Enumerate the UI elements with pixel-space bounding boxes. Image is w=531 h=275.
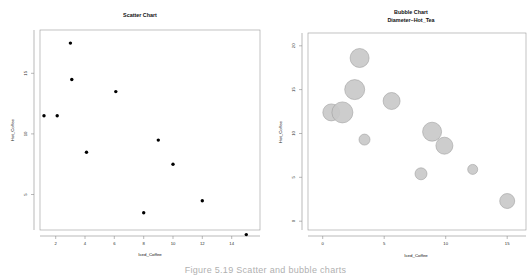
figure-caption: Figure 5.19 Scatter and bubble charts	[0, 261, 531, 275]
scatter-point	[142, 211, 145, 214]
scatter-point	[85, 151, 88, 154]
scatter-chart-svg: Scatter Chart 2 4 6 8 10 12 14 Iced_Coff…	[0, 0, 266, 275]
scatter-x-axis-title: Iced_Coffee	[138, 252, 162, 257]
scatter-point	[114, 90, 117, 93]
bubble-x-tick-label: 5	[383, 241, 386, 246]
bubble-point	[350, 49, 369, 68]
scatter-point	[245, 233, 248, 236]
bubble-point	[359, 134, 370, 145]
bubble-y-tick-label: 0	[291, 219, 296, 222]
scatter-x-tick-label: 2	[55, 241, 58, 246]
bubble-chart-panel: Bubble Chart Diameter~Hot_Tea 0 5 10 15 …	[266, 0, 531, 275]
bubble-point	[331, 102, 352, 123]
scatter-plot-frame	[40, 30, 260, 230]
bubble-y-tick-label: 5	[291, 175, 296, 178]
bubble-point	[499, 194, 514, 209]
scatter-x-ticks	[56, 236, 232, 239]
bubble-chart-title: Bubble Chart	[394, 9, 428, 15]
scatter-y-ticks	[31, 73, 34, 194]
scatter-point	[171, 163, 174, 166]
scatter-x-tick-label: 10	[171, 241, 176, 246]
bubble-point	[383, 93, 400, 110]
bubble-x-tick-label: 15	[504, 241, 509, 246]
bubble-y-axis-title: Hot_Coffee	[278, 120, 283, 143]
bubble-plot-frame	[308, 33, 526, 230]
bubble-x-ticks	[322, 236, 507, 239]
scatter-point	[56, 114, 59, 117]
scatter-y-axis-title: Hot_Coffee	[10, 118, 15, 141]
figure-container: Scatter Chart 2 4 6 8 10 12 14 Iced_Coff…	[0, 0, 531, 275]
bubble-y-tick-label: 20	[291, 43, 296, 48]
bubble-y-tick-label: 15	[291, 87, 296, 92]
scatter-x-tick-label: 4	[84, 241, 87, 246]
bubble-point	[415, 168, 427, 180]
bubble-x-tick-label: 10	[443, 241, 448, 246]
scatter-x-tick-label: 8	[143, 241, 146, 246]
scatter-point	[69, 41, 72, 44]
scatter-x-tick-label: 14	[229, 241, 234, 246]
bubble-chart-svg: Bubble Chart Diameter~Hot_Tea 0 5 10 15 …	[266, 0, 531, 275]
scatter-point	[70, 78, 73, 81]
figure-caption-text: Figure 5.19 Scatter and bubble charts	[0, 265, 531, 275]
bubble-y-ticks	[299, 46, 302, 221]
scatter-y-tick-label: 10	[23, 131, 28, 136]
scatter-x-tick-label: 6	[113, 241, 116, 246]
bubble-y-tick-label: 10	[291, 131, 296, 136]
scatter-point	[42, 114, 45, 117]
bubble-x-axis-title: Iced_Coffee	[404, 253, 428, 258]
scatter-point	[157, 138, 160, 141]
scatter-y-tick-label: 5	[23, 193, 28, 196]
scatter-y-tick-label: 15	[23, 70, 28, 75]
bubble-point	[435, 137, 452, 154]
scatter-chart-panel: Scatter Chart 2 4 6 8 10 12 14 Iced_Coff…	[0, 0, 266, 275]
bubble-chart-subtitle: Diameter~Hot_Tea	[387, 17, 435, 23]
bubble-point	[344, 80, 364, 100]
bubble-point	[422, 122, 441, 141]
bubble-x-tick-label: 0	[321, 241, 324, 246]
scatter-chart-title: Scatter Chart	[123, 12, 157, 18]
bubble-point	[467, 164, 477, 174]
scatter-point	[201, 199, 204, 202]
scatter-x-tick-label: 12	[200, 241, 205, 246]
